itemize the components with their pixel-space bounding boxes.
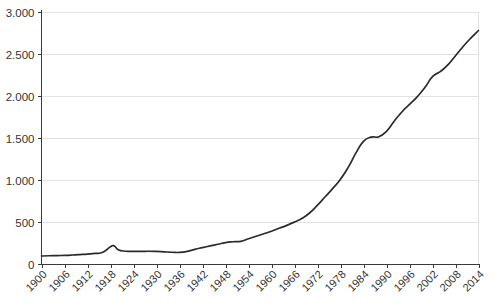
x-tick-label: 1906 [46,268,72,294]
x-tick-label: 1930 [138,268,164,294]
x-tick-label: 1912 [69,268,95,294]
x-tick-label: 1936 [161,268,187,294]
y-tick-labels: 05001.0001.5002.0002.5003.000 [6,7,35,271]
x-tick-label: 2008 [437,268,463,294]
x-tick-label: 1954 [230,268,256,294]
x-tick-label: 1966 [276,268,302,294]
x-tick-label: 1960 [253,268,279,294]
x-tick-label: 1972 [299,268,325,294]
x-tick-label: 1984 [345,268,371,294]
y-tick-label: 500 [15,217,34,229]
chart-container: 05001.0001.5002.0002.5003.000 1900190619… [0,0,492,302]
x-tick-label: 1996 [391,268,417,294]
x-tick-label: 1918 [92,268,118,294]
x-tick-label: 1900 [23,268,49,294]
y-tick-label: 0 [28,259,34,271]
x-tick-label: 1942 [184,268,210,294]
line-chart: 05001.0001.5002.0002.5003.000 1900190619… [0,0,492,302]
x-tick-label: 2002 [414,268,440,294]
x-tick-labels: 1900190619121918192419301936194219481954… [23,268,486,294]
y-tick-label: 3.000 [6,7,35,19]
x-tick-label: 1990 [368,268,394,294]
x-tick-label: 1978 [322,268,348,294]
x-tick-label: 1948 [207,268,233,294]
y-tick-label: 1.000 [6,175,35,187]
y-tick-label: 2.000 [6,91,35,103]
x-tick-label: 2014 [460,268,486,294]
y-tick-label: 2.500 [6,49,35,61]
x-tick-label: 1924 [115,268,141,294]
y-tick-label: 1.500 [6,133,35,145]
gridlines [42,13,479,223]
